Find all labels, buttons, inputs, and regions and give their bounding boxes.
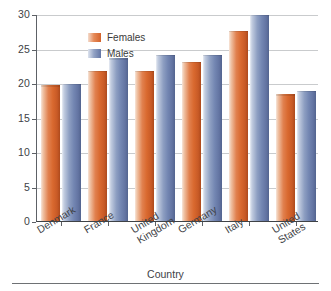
y-tick-label: 10 bbox=[0, 146, 30, 158]
y-tick-label: 25 bbox=[0, 43, 30, 55]
males-swatch-icon bbox=[88, 49, 101, 58]
bar-chart-figure: Age 051015202530 Females Males DenmarkFr… bbox=[0, 0, 331, 291]
plot-area: Females Males bbox=[36, 15, 318, 222]
y-tick-mark bbox=[32, 222, 36, 223]
legend-label-females: Females bbox=[107, 32, 145, 43]
y-tick-label: 0 bbox=[0, 215, 30, 227]
plot-frame bbox=[36, 15, 318, 222]
y-tick-label: 30 bbox=[0, 8, 30, 20]
y-tick-label: 15 bbox=[0, 112, 30, 124]
x-axis-title: Country bbox=[0, 268, 331, 280]
legend-label-males: Males bbox=[107, 48, 134, 59]
legend: Females Males bbox=[88, 31, 145, 63]
females-swatch-icon bbox=[88, 33, 101, 42]
y-tick-label: 5 bbox=[0, 181, 30, 193]
page-separator-rule bbox=[12, 283, 319, 284]
legend-item-males: Males bbox=[88, 47, 145, 60]
y-tick-label: 20 bbox=[0, 77, 30, 89]
legend-item-females: Females bbox=[88, 31, 145, 44]
